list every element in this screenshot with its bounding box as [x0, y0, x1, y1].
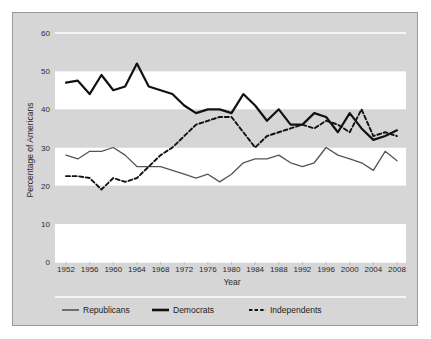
x-tick-label: 1996 — [317, 265, 335, 274]
x-tick-label: 1956 — [81, 265, 99, 274]
band-30 — [55, 109, 406, 147]
y-tick-label: 0 — [46, 258, 51, 267]
band-20 — [55, 148, 406, 186]
x-tick-label: 1972 — [175, 265, 193, 274]
band-40 — [55, 71, 406, 109]
x-tick-label: 2004 — [364, 265, 382, 274]
x-tick-label: 1980 — [223, 265, 241, 274]
plot-wrapper: 0102030405060 19521956196019641968197219… — [0, 0, 431, 339]
x-tick-label: 1984 — [246, 265, 264, 274]
y-tick-label: 30 — [41, 144, 50, 153]
y-tick-label: 60 — [41, 29, 50, 38]
legend-label-democrats: Democrats — [173, 305, 214, 315]
x-axis-title: Year — [223, 277, 240, 287]
x-tick-label: 1992 — [294, 265, 312, 274]
band-50 — [55, 33, 406, 71]
chart-figure: 0102030405060 19521956196019641968197219… — [0, 0, 431, 339]
x-tick-label: 2000 — [341, 265, 359, 274]
y-tick-label: 20 — [41, 182, 50, 191]
alternating-bands — [55, 33, 406, 262]
x-tick-label: 1960 — [104, 265, 122, 274]
line-chart: 0102030405060 19521956196019641968197219… — [0, 0, 431, 339]
x-tick-label: 1964 — [128, 265, 146, 274]
x-tick-label: 1968 — [152, 265, 170, 274]
x-tick-label: 1976 — [199, 265, 217, 274]
y-tick-label: 40 — [41, 105, 50, 114]
y-tick-label: 50 — [41, 67, 50, 76]
y-tick-label: 10 — [41, 220, 50, 229]
y-axis-tick-labels: 0102030405060 — [41, 29, 50, 267]
x-tick-label: 1952 — [57, 265, 75, 274]
chart-legend: RepublicansDemocratsIndependents — [55, 297, 406, 315]
legend-label-independents: Independents — [270, 305, 322, 315]
band-10 — [55, 186, 406, 224]
x-tick-label: 1988 — [270, 265, 288, 274]
x-axis-tick-labels: 1952195619601964196819721976198019841988… — [57, 265, 406, 274]
band-0 — [55, 224, 406, 262]
y-axis-title: Percentage of Americans — [25, 103, 35, 198]
x-tick-label: 2008 — [388, 265, 406, 274]
legend-label-republicans: Republicans — [83, 305, 130, 315]
